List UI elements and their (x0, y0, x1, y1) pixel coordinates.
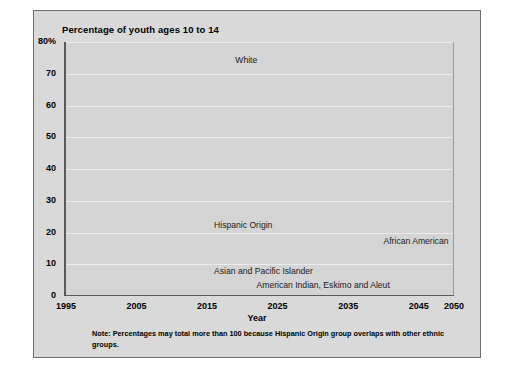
gridline (64, 42, 454, 43)
y-tick-label: 40 (16, 163, 56, 173)
x-axis-label: Year (34, 313, 480, 323)
gridline (64, 233, 454, 234)
x-tick-label: 2050 (434, 301, 474, 311)
gridline (64, 74, 454, 75)
y-tick-label: 0 (16, 290, 56, 300)
x-tick-label: 1995 (46, 301, 86, 311)
gridline (64, 106, 454, 107)
y-tick-label: 30 (16, 195, 56, 205)
gridline (64, 137, 454, 138)
y-tick-label: 10 (16, 258, 56, 268)
y-tick-label: 20 (16, 227, 56, 237)
plot-area: WhiteHispanic OriginAfrican AmericanAsia… (64, 42, 454, 296)
x-tick-label: 2015 (187, 301, 227, 311)
x-tick-label: 2005 (117, 301, 157, 311)
y-tick-label: 60 (16, 100, 56, 110)
x-tick-label: 2035 (328, 301, 368, 311)
y-tick-label: 80% (16, 36, 56, 46)
gridline (64, 264, 454, 265)
chart-title: Percentage of youth ages 10 to 14 (62, 24, 219, 35)
series-label: Hispanic Origin (214, 220, 272, 230)
series-label: African American (384, 236, 449, 246)
series-label: Asian and Pacific Islander (214, 266, 313, 276)
y-tick-label: 70 (16, 68, 56, 78)
x-tick-label: 2045 (399, 301, 439, 311)
x-axis-line (64, 295, 454, 297)
series-label: White (235, 55, 257, 65)
series-label: American Indian, Eskimo and Aleut (257, 280, 390, 290)
chart-note: Note: Percentages may total more than 10… (92, 329, 452, 350)
figure-panel: Percentage of youth ages 10 to 14 WhiteH… (33, 10, 481, 358)
right-axis-line (453, 42, 454, 296)
gridline (64, 169, 454, 170)
gridline (64, 201, 454, 202)
x-tick-label: 2025 (258, 301, 298, 311)
y-tick-label: 50 (16, 131, 56, 141)
y-axis-line (64, 42, 66, 296)
